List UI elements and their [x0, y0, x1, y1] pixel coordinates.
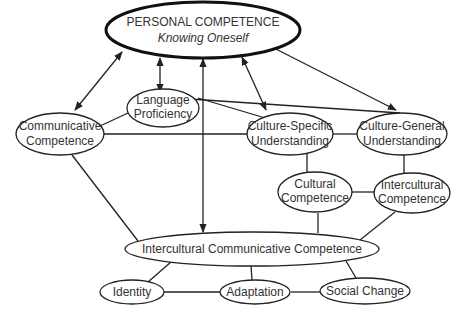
language-proficiency-line1: Language	[136, 93, 190, 107]
node-intercultural-communicative-competence: Intercultural Communicative Competence	[125, 232, 379, 266]
edge-language-culture-specific	[198, 98, 272, 120]
icc-label: Intercultural Communicative Competence	[142, 242, 362, 256]
node-social-change: Social Change	[320, 278, 410, 304]
edge-personal-culture-general	[264, 43, 396, 110]
culture-general-line1: Culture-General	[359, 119, 444, 133]
intercultural-competence-line1: Intercultural	[381, 178, 444, 192]
edge-language-communicative	[100, 113, 128, 126]
node-cultural-competence: Cultural Competence	[278, 172, 352, 212]
personal-competence-subtitle: Knowing Oneself	[158, 31, 250, 45]
identity-label: Identity	[113, 285, 152, 299]
edge-personal-culture-specific	[242, 57, 266, 110]
node-culture-specific-understanding: Culture-Specific Understanding	[247, 113, 333, 155]
cultural-competence-line2: Competence	[281, 191, 349, 205]
node-culture-general-understanding: Culture-General Understanding	[357, 113, 447, 155]
node-identity: Identity	[100, 280, 164, 304]
social-change-label: Social Change	[326, 284, 404, 298]
intercultural-competence-line2: Competence	[378, 192, 446, 206]
node-communicative-competence: Communicative Competence	[16, 113, 104, 155]
communicative-competence-line1: Communicative	[19, 119, 102, 133]
competence-diagram: PERSONAL COMPETENCE Knowing Oneself Lang…	[0, 0, 472, 317]
culture-specific-line1: Culture-Specific	[248, 119, 333, 133]
language-proficiency-line2: Proficiency	[134, 107, 193, 121]
cultural-competence-line1: Cultural	[294, 177, 335, 191]
culture-general-line2: Understanding	[363, 134, 441, 148]
node-intercultural-competence: Intercultural Competence	[374, 173, 450, 213]
edge-personal-communicative	[75, 52, 122, 110]
culture-specific-line2: Understanding	[251, 134, 329, 148]
edge-icc-social-change	[346, 261, 356, 278]
communicative-competence-line2: Competence	[26, 134, 94, 148]
edge-icc-identity	[148, 262, 171, 282]
node-language-proficiency: Language Proficiency	[127, 89, 199, 127]
edge-intercultural-icc	[360, 212, 395, 240]
personal-competence-title: PERSONAL COMPETENCE	[127, 15, 280, 29]
edge-communicative-icc	[72, 155, 138, 241]
edge-language-culture-general	[190, 99, 400, 113]
edge-icc-adaptation	[251, 266, 252, 280]
node-adaptation: Adaptation	[220, 280, 290, 304]
adaptation-label: Adaptation	[226, 285, 283, 299]
node-personal-competence: PERSONAL COMPETENCE Knowing Oneself	[106, 2, 300, 58]
